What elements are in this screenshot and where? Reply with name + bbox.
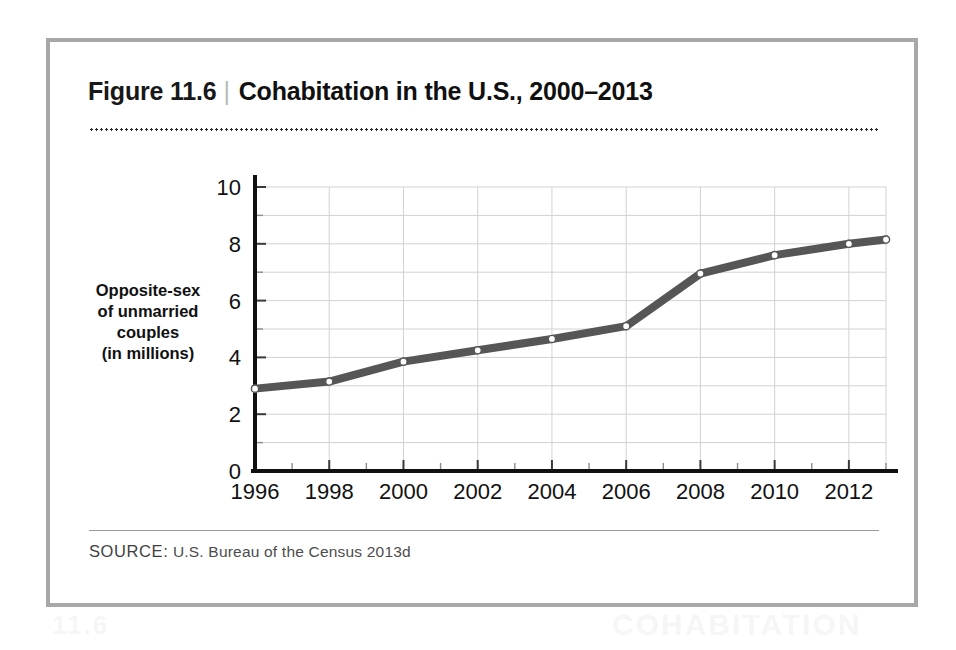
x-tick-label: 2004: [527, 479, 576, 504]
data-point: [882, 236, 889, 243]
data-point: [326, 378, 333, 385]
x-tick-label: 2002: [453, 479, 502, 504]
line-chart: 0246810 19961998200020022004200620082010…: [50, 42, 922, 611]
y-tick-labels: 0246810: [217, 175, 241, 484]
x-tick-label: 1996: [231, 479, 280, 504]
data-point: [548, 335, 555, 342]
x-tick-label: 2008: [676, 479, 725, 504]
source-rule: [89, 530, 879, 531]
data-point: [771, 252, 778, 259]
page-bleed-left: 11.6: [52, 610, 109, 641]
source-text: U.S. Bureau of the Census 2013d: [168, 543, 411, 560]
x-tick-labels: 199619982000200220042006200820102012: [231, 479, 874, 504]
chart-svg: 0246810 19961998200020022004200620082010…: [50, 42, 922, 611]
x-tick-label: 2000: [379, 479, 428, 504]
gridlines: [255, 187, 886, 471]
y-tick-label: 10: [217, 175, 241, 200]
y-tick-label: 2: [229, 402, 241, 427]
data-point: [400, 358, 407, 365]
data-point: [251, 385, 258, 392]
y-tick-label: 8: [229, 232, 241, 257]
y-tick-label: 6: [229, 289, 241, 314]
series-polyline: [255, 240, 886, 389]
data-point: [623, 323, 630, 330]
data-points: [251, 236, 889, 392]
data-point: [697, 270, 704, 277]
y-tick-label: 4: [229, 345, 241, 370]
data-point: [474, 347, 481, 354]
figure-frame: Figure 11.6|Cohabitation in the U.S., 20…: [46, 38, 918, 607]
x-tick-label: 2012: [824, 479, 873, 504]
source-label: SOURCE:: [89, 542, 168, 560]
x-tick-label: 1998: [305, 479, 354, 504]
data-point: [845, 240, 852, 247]
page-bleed-right: COHABITATION: [612, 608, 862, 642]
x-tick-label: 2010: [750, 479, 799, 504]
data-line: [255, 240, 886, 389]
source-line: SOURCE: U.S. Bureau of the Census 2013d: [89, 542, 411, 561]
axis-lines: [253, 177, 896, 471]
x-tick-label: 2006: [602, 479, 651, 504]
